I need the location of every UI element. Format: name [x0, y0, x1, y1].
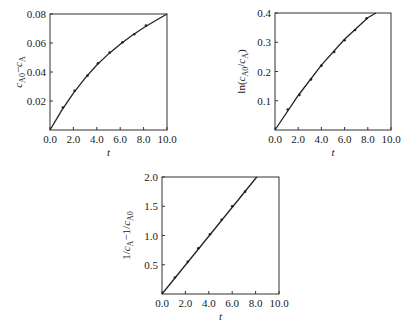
x-tick-label: 6.0: [225, 297, 239, 309]
x-tick-label: 6.0: [338, 133, 352, 145]
chart-canvas: 0.02.04.06.08.010.00.020.040.060.08tcA0−…: [0, 0, 200, 160]
fit-curve: [162, 177, 257, 294]
chart-canvas: 0.02.04.06.08.010.00.10.20.30.4tln(cA0/c…: [200, 0, 408, 160]
fit-curve: [50, 14, 167, 130]
fit-curve: [275, 13, 376, 130]
x-tick-label: 8.0: [249, 297, 263, 309]
x-tick-label: 4.0: [90, 133, 104, 145]
plot-3-reciprocal-difference: 0.02.04.06.08.010.00.51.01.52.0t1/cA−1/c…: [100, 162, 308, 326]
y-tick-label: 0.2: [257, 66, 271, 78]
plot-1-concentration-difference: 0.02.04.06.08.010.00.020.040.060.08tcA0−…: [0, 0, 200, 164]
x-tick-label: 10.0: [269, 297, 289, 309]
x-tick-label: 0.0: [43, 133, 57, 145]
x-tick-label: 6.0: [113, 133, 127, 145]
x-tick-label: 0.0: [155, 297, 169, 309]
y-axis-label: ln(cA0/cA): [235, 49, 250, 94]
y-tick-label: 0.3: [257, 36, 271, 48]
y-tick-label: 1.5: [144, 200, 158, 212]
y-tick-label: 0.5: [144, 259, 158, 271]
x-axis-label: t: [219, 310, 223, 322]
y-tick-label: 0.08: [27, 8, 47, 20]
x-tick-label: 2.0: [179, 297, 193, 309]
chart-canvas: 0.02.04.06.08.010.00.51.01.52.0t1/cA−1/c…: [100, 162, 308, 322]
x-tick-label: 8.0: [361, 133, 375, 145]
y-tick-label: 1.0: [144, 230, 158, 242]
x-tick-label: 2.0: [67, 133, 81, 145]
y-axis-label: cA0−cA: [12, 56, 27, 88]
x-tick-label: 0.0: [268, 133, 282, 145]
x-tick-label: 2.0: [291, 133, 305, 145]
x-axis-label: t: [331, 146, 335, 158]
x-tick-label: 10.0: [381, 133, 401, 145]
y-tick-label: 0.06: [27, 37, 47, 49]
y-tick-label: 2.0: [144, 171, 158, 183]
x-tick-label: 10.0: [157, 133, 177, 145]
y-axis-label: 1/cA−1/cA0: [120, 211, 135, 260]
x-axis-label: t: [107, 146, 111, 158]
y-tick-label: 0.02: [27, 95, 46, 107]
y-tick-label: 0.04: [27, 66, 47, 78]
x-tick-label: 8.0: [137, 133, 151, 145]
plot-frame: [275, 13, 391, 130]
plot-frame: [50, 14, 167, 130]
x-tick-label: 4.0: [202, 297, 216, 309]
plot-frame: [162, 177, 279, 294]
y-tick-label: 0.1: [257, 95, 271, 107]
y-tick-label: 0.4: [257, 7, 271, 19]
plot-2-log-ratio: 0.02.04.06.08.010.00.10.20.30.4tln(cA0/c…: [200, 0, 408, 164]
x-tick-label: 4.0: [315, 133, 329, 145]
figure-caption: [0, 324, 408, 333]
